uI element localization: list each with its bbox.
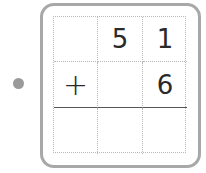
answer-cell-3[interactable] [143,108,187,154]
cell-r1-c3: 1 [143,17,187,62]
cell-r2-c3: 6 [143,62,187,108]
cell-r1-c1 [54,17,98,62]
cell-r1-c2: 5 [98,17,143,62]
addition-grid: 5 1 + 6 [53,16,186,153]
operator-plus: + [54,62,98,108]
answer-cell-2[interactable] [98,108,143,154]
bullet-dot [13,78,24,89]
answer-cell-1[interactable] [54,108,98,154]
cell-r2-c2 [98,62,143,108]
